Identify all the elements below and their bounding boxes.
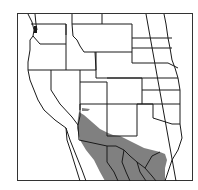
puget-sound (34, 26, 37, 33)
range-map: Range map (0, 0, 198, 190)
map-canvas (0, 0, 198, 190)
